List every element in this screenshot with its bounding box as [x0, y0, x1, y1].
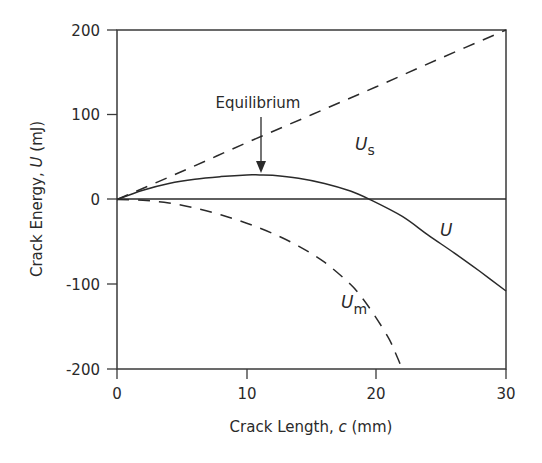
crack-energy-chart: 200 100 0 -100 -200 0 10 20 30 Crack Len… — [0, 0, 542, 463]
arrow-down-icon — [256, 161, 266, 173]
y-axis-title: Crack Energy, U (mJ) — [28, 121, 46, 277]
um-curve-label: Um — [341, 292, 367, 317]
curve-u-s — [117, 30, 506, 200]
y-tick-label: -100 — [66, 276, 100, 294]
x-ticks — [117, 369, 506, 379]
curve-u-m — [117, 200, 402, 370]
x-tick-label: 20 — [366, 385, 385, 403]
y-ticks — [107, 30, 117, 369]
y-tick-label: -200 — [66, 361, 100, 379]
y-tick-label: 200 — [71, 22, 100, 40]
u-curve-label: U — [440, 220, 453, 240]
us-curve-label: Us — [355, 134, 375, 158]
x-tick-label: 0 — [112, 385, 122, 403]
y-tick-label: 0 — [90, 191, 100, 209]
x-axis-title: Crack Length, c (mm) — [230, 418, 393, 436]
x-tick-label: 10 — [237, 385, 256, 403]
x-tick-label: 30 — [496, 385, 515, 403]
y-tick-label: 100 — [71, 106, 100, 124]
equilibrium-label: Equilibrium — [216, 94, 301, 112]
